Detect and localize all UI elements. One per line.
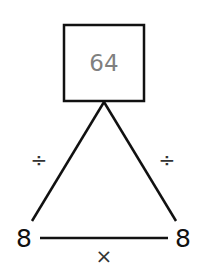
right-value: 8 [175, 226, 191, 251]
left-value: 8 [16, 226, 32, 251]
bottom-multiply-operator: × [96, 246, 113, 266]
top-value: 64 [89, 52, 118, 75]
left-divide-operator: ÷ [31, 150, 48, 170]
right-divide-operator: ÷ [159, 150, 176, 170]
